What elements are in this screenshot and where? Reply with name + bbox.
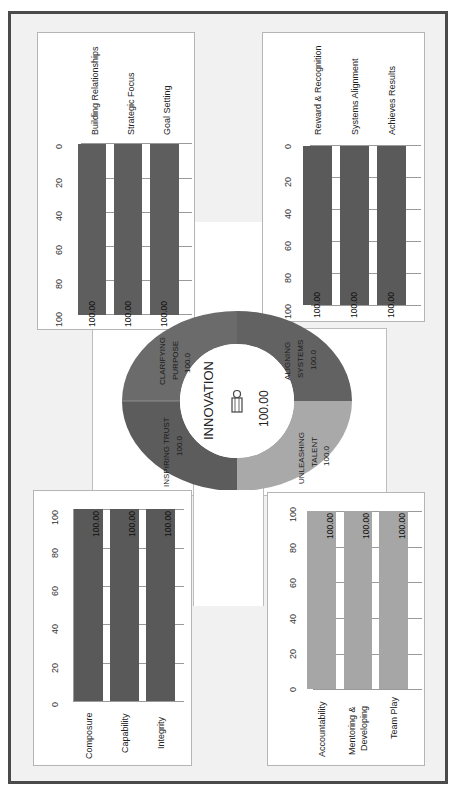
value-label: 100.00 [386,292,396,318]
tick-label: 0 [50,702,60,707]
bar-achieves-results [377,146,406,305]
chart-aligning-systems: 0 20 40 60 80 100 100.00 100.00 100.00 R… [262,32,425,322]
tick-label: 20 [288,649,298,659]
tick-label: 40 [288,614,298,624]
tick-label: 40 [283,209,293,219]
value-label: 100.00 [91,511,101,537]
tick-label: 0 [283,144,293,149]
tick-label: 60 [288,578,298,588]
chart-clarifying-purpose: 0 20 40 60 80 100 100.00 100.00 100.00 B… [37,32,195,330]
category-label: Achieves Results [387,66,397,135]
bar-reward-recognition [303,146,332,305]
bar-systems-alignment [340,146,369,305]
value-label: 100.00 [87,301,97,327]
chart-unleashing-talent: 0 20 40 60 80 100 100.00 100.00 100.00 A… [267,492,425,766]
segment-label-talent: TALENT [310,437,320,467]
segment-label-clarifying: CLARIFYING [158,337,168,385]
value-label: 100.00 [127,511,137,537]
bar-building-relationships [78,144,106,315]
segment-value-unleashing: 100.0 [322,446,332,466]
chart-inspiring-trust: 0 20 40 60 80 100 100.00 100.00 100.00 C… [33,490,192,766]
category-label: Goal Setting [162,85,172,135]
donut-center-value: 100.00 [257,390,271,427]
tick-label: 20 [283,177,293,187]
category-label: Integrity [156,717,166,749]
value-label: 100.00 [397,513,407,539]
segment-value-clarifying: 100.0 [183,353,193,373]
tick-label: 100 [54,312,64,327]
segment-label-systems: SYSTEMS [296,340,306,378]
category-label: Developing [359,706,369,751]
category-label: Accountability [317,701,327,757]
segment-value-inspiring: 100.0 [175,436,185,456]
tick-label: 60 [283,241,293,251]
value-label: 100.00 [163,511,173,537]
category-label: Composure [84,712,94,759]
tick-label: 100 [288,507,298,522]
bar-goal-setting [150,144,179,315]
segment-label-purpose: PURPOSE [171,341,181,380]
tick-label: 80 [288,543,298,553]
segment-value-aligning: 100.0 [309,350,319,370]
bar-composure [74,509,103,701]
value-label: 100.00 [361,513,371,539]
value-label: 100.00 [325,513,335,539]
bar-strategic-focus [114,144,142,315]
segment-label-unleashing: UNLEASHING [297,432,307,484]
category-label: Reward & Recognition [313,45,323,135]
donut-center-title: INNOVATION [201,361,216,440]
tick-label: 20 [54,178,64,188]
category-label: Capability [120,713,130,753]
category-label: Mentoring & [347,706,357,755]
bar-capability [110,509,139,701]
segment-label-inspiring-trust: INSPIRING TRUST [162,417,172,487]
tick-label: 0 [288,687,298,692]
tick-label: 40 [50,624,60,634]
tick-label: 60 [50,586,60,596]
tick-label: 80 [50,548,60,558]
bar-integrity [146,509,175,701]
segment-label-aligning: ALIGNING [283,342,293,380]
category-label: Building Relationships [90,46,100,135]
tick-label: 0 [54,144,64,149]
tick-label: 80 [283,273,293,283]
tick-label: 60 [54,245,64,255]
category-label: Systems Alignment [350,58,360,135]
tick-label: 20 [50,663,60,673]
category-label: Strategic Focus [126,72,136,135]
tick-label: 100 [50,510,60,525]
tick-label: 40 [54,211,64,221]
category-label: Team Play [389,697,399,739]
tick-label: 80 [54,279,64,289]
